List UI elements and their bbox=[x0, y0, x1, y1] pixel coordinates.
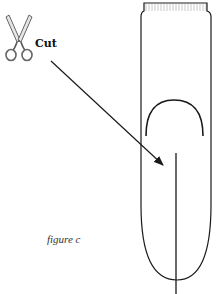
figure-caption: figure c bbox=[47, 233, 81, 245]
blade-arch bbox=[146, 100, 203, 136]
comb-teeth bbox=[146, 4, 206, 11]
figure-canvas: Cut figure c bbox=[0, 0, 216, 294]
scissors-icon bbox=[3, 14, 35, 62]
cut-arrow bbox=[51, 61, 163, 165]
cut-label: Cut bbox=[35, 37, 57, 50]
